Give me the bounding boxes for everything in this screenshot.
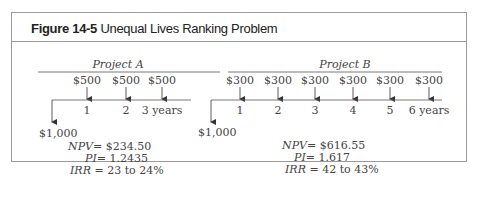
project-b: Project B $3001$3002$3003$3004$3005$3006… — [198, 58, 450, 176]
period-label: 2 — [123, 104, 130, 117]
project-a-title: Project A — [91, 58, 143, 71]
cash-inflow-amount: $300 — [339, 74, 367, 87]
project-b-title: Project B — [318, 58, 370, 71]
cash-inflow-amount: $500 — [112, 74, 140, 87]
project-a-outflow: $1,000 — [39, 127, 78, 140]
project-a: Project A $5001$5002$5003 years $1,000 N… — [38, 58, 220, 177]
project-b-irr: IRR = 42 to 43% — [284, 163, 379, 176]
period-label: 4 — [350, 104, 357, 117]
cash-inflow-amount: $300 — [301, 74, 329, 87]
period-label: 3 years — [142, 104, 183, 117]
irr-value: = 42 to 43% — [306, 163, 379, 176]
cash-inflow-amount: $300 — [415, 74, 443, 87]
cash-inflow-amount: $300 — [264, 74, 292, 87]
period-label: 1 — [237, 104, 244, 117]
project-a-irr: IRR = 23 to 24% — [69, 164, 164, 177]
cash-inflow-amount: $300 — [226, 74, 254, 87]
cash-inflow-amount: $500 — [73, 74, 101, 87]
period-label: 6 years — [409, 104, 450, 117]
period-label: 1 — [84, 104, 91, 117]
irr-label: IRR — [284, 163, 306, 176]
period-label: 2 — [275, 104, 282, 117]
project-b-outflow: $1,000 — [198, 126, 237, 139]
cash-flow-diagram: Project A $5001$5002$5003 years $1,000 N… — [0, 0, 480, 198]
period-label: 5 — [387, 104, 394, 117]
irr-label: IRR — [69, 164, 91, 177]
period-label: 3 — [312, 104, 319, 117]
cash-inflow-amount: $300 — [376, 74, 404, 87]
cash-inflow-amount: $500 — [148, 74, 176, 87]
irr-value: = 23 to 24% — [91, 164, 164, 177]
